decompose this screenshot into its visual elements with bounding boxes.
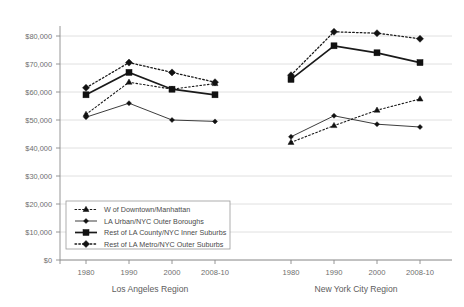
- series-rest-la-county-la: [83, 69, 218, 97]
- legend-label: W of Downtown/Manhattan: [104, 205, 190, 214]
- legend-label: Rest of LA Metro/NYC Outer Suburbs: [104, 240, 224, 249]
- group-label-los-angeles: Los Angeles Region: [112, 284, 189, 294]
- legend-label: Rest of LA County/NYC Inner Suburbs: [104, 228, 227, 237]
- x-tick-label: 2008-10: [201, 268, 229, 277]
- x-tick-label: 2000: [164, 268, 181, 277]
- line-chart: $80,000 $70,000 $60,000 $50,000 $40,000 …: [0, 0, 464, 307]
- group-labels: Los Angeles Region New York City Region: [112, 284, 398, 294]
- x-tick-label: 1980: [78, 268, 95, 277]
- x-tick-label: 1980: [283, 268, 300, 277]
- y-tick-label: $0: [44, 256, 52, 265]
- group-label-new-york: New York City Region: [314, 284, 397, 294]
- chart-container: $80,000 $70,000 $60,000 $50,000 $40,000 …: [0, 0, 464, 307]
- chart-legend: W of Downtown/Manhattan LA Urban/NYC Out…: [66, 201, 230, 249]
- y-tick-label: $80,000: [25, 32, 52, 41]
- x-tick-label: 1990: [326, 268, 343, 277]
- legend-label: LA Urban/NYC Outer Boroughs: [104, 217, 204, 226]
- x-tick-label: 2000: [369, 268, 386, 277]
- series-w-of-downtown-la: [83, 79, 218, 116]
- y-tick-label: $20,000: [25, 200, 52, 209]
- series-la-urban-la: [84, 101, 218, 124]
- y-tick-label: $30,000: [25, 172, 52, 181]
- y-tick-label: $70,000: [25, 60, 52, 69]
- series-nyc-inner-suburbs-nyc: [288, 43, 423, 83]
- y-axis: [56, 26, 60, 264]
- x-tick-label: 2008-10: [406, 268, 434, 277]
- y-tick-label: $40,000: [25, 144, 52, 153]
- x-tick-label: 1990: [121, 268, 138, 277]
- y-tick-label: $60,000: [25, 88, 52, 97]
- y-tick-labels: $80,000 $70,000 $60,000 $50,000 $40,000 …: [25, 32, 52, 265]
- y-tick-label: $50,000: [25, 116, 52, 125]
- y-tick-label: $10,000: [25, 228, 52, 237]
- x-tick-labels: 1980 1990 2000 2008-10 1980 1990 2000 20…: [78, 268, 434, 277]
- x-axis: [60, 260, 452, 264]
